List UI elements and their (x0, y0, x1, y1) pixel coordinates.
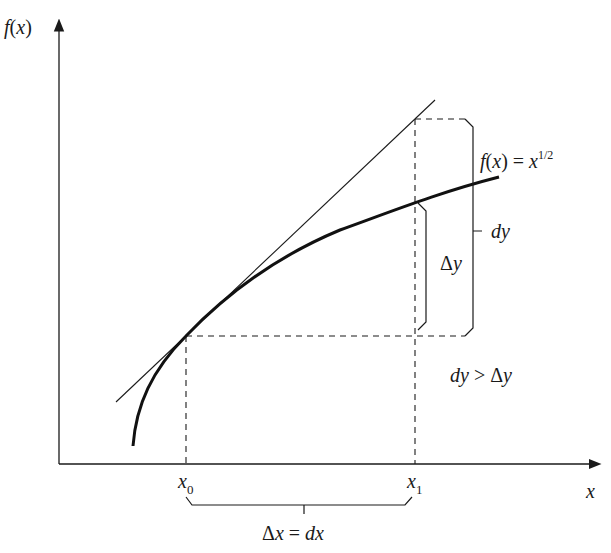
x1-label: x1 (406, 470, 422, 497)
sqrt-curve (133, 177, 499, 446)
dx-brace (186, 497, 412, 514)
comparison-label: dy > Δy (450, 364, 512, 387)
function-label: f(x) = x1/2 (480, 148, 553, 173)
x-axis-label: x (585, 480, 595, 502)
delta-y-label: Δy (440, 252, 462, 275)
dashed-guides (186, 119, 465, 464)
dx-label: Δx = dx (262, 522, 324, 544)
diagram-canvas: f(x) x f(x) = x1/2 dy Δy dy > Δy x0 x1 Δ… (0, 0, 611, 553)
y-axis-label: f(x) (4, 16, 32, 39)
tangent-line (116, 100, 435, 402)
dy-label: dy (491, 220, 510, 243)
x0-label: x0 (177, 470, 193, 497)
delta-y-brace (418, 203, 426, 330)
diagram-svg: f(x) x f(x) = x1/2 dy Δy dy > Δy x0 x1 Δ… (0, 0, 611, 553)
